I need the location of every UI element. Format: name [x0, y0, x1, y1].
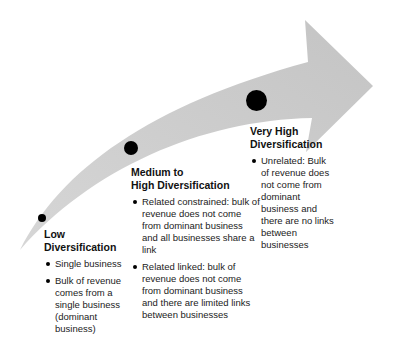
- stage-marker-medium: [124, 141, 138, 155]
- bullet-item: Related constrained: bulk of revenue doe…: [142, 196, 261, 256]
- stage-bullets: Related constrained: bulk of revenue doe…: [131, 196, 261, 321]
- bullet-item: Related linked: bulk of revenue does not…: [142, 261, 261, 321]
- stage-title: Medium to High Diversification: [131, 166, 261, 192]
- stage-bullets: Unrelated: Bulk of revenue does not come…: [250, 155, 335, 251]
- bullet-item: Bulk of revenue comes from a single busi…: [55, 275, 135, 335]
- bullet-item: Unrelated: Bulk of revenue does not come…: [261, 155, 335, 251]
- stage-title: Very High Diversification: [250, 125, 335, 151]
- stage-marker-very-high: [246, 90, 267, 111]
- stage-medium-high: Medium to High Diversification Related c…: [131, 166, 261, 326]
- stage-marker-low: [38, 214, 46, 222]
- stage-very-high: Very High Diversification Unrelated: Bul…: [250, 125, 335, 256]
